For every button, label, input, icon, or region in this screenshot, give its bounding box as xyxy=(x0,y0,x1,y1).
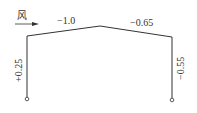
right-column-coefficient: −0.55 xyxy=(175,57,186,80)
wind-label: 风 xyxy=(17,10,27,21)
portal-frame-diagram: 风 −1.0 −0.65 +0.25 −0.55 xyxy=(0,0,197,113)
frame-outline xyxy=(27,26,172,98)
wind-arrow-icon xyxy=(15,22,39,26)
left-roof-coefficient: −1.0 xyxy=(57,15,75,26)
left-column-coefficient: +0.25 xyxy=(13,59,24,82)
left-support-icon xyxy=(25,97,29,101)
right-support-icon xyxy=(170,98,174,102)
right-roof-coefficient: −0.65 xyxy=(130,17,153,28)
